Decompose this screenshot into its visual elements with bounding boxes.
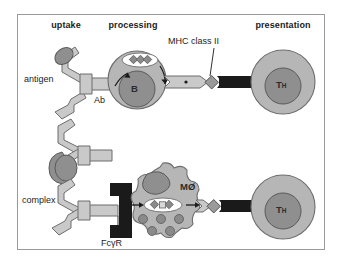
macrophage-name: MØ <box>180 181 195 192</box>
b-cell-name: B <box>131 83 138 94</box>
antigen-label: antigen <box>24 74 54 84</box>
fc-gamma-receptor-label: FcγR <box>101 238 122 248</box>
th-cell-bottom-name-sub: H <box>282 207 287 214</box>
ab-label: Ab <box>94 95 105 105</box>
th-cell-top-name-sub: H <box>282 82 287 89</box>
t-cell-receptor-b <box>217 76 256 88</box>
macrophage-cell <box>128 163 200 238</box>
antigen-particle <box>52 44 77 68</box>
mhc-class-ii-molecule-b <box>164 76 208 88</box>
th-cell-top-name: TH <box>276 79 287 90</box>
peptide-antigen-mac <box>207 200 220 213</box>
mhc-class-ii-label: MHC class II <box>168 36 219 46</box>
mhc-class-ii-leader-line <box>210 48 214 76</box>
th-cell-bottom-name: TH <box>276 204 287 215</box>
complex-label: complex <box>22 195 56 205</box>
peptide-antigen-b <box>205 76 218 89</box>
t-cell-receptor-mac <box>219 200 256 212</box>
figure-canvas: uptake processing presentation <box>0 0 345 268</box>
b-cell <box>108 51 168 109</box>
immune-complex <box>49 119 118 235</box>
